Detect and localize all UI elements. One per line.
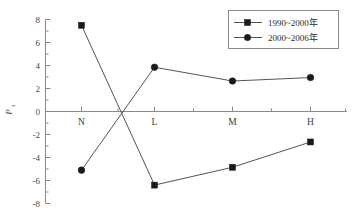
x-tick-label: M [228, 117, 237, 127]
data-point-circle [229, 78, 236, 85]
y-tick-label: 0 [36, 107, 41, 117]
series-line-2000-2006 [82, 67, 311, 170]
y-tick-label: -2 [33, 130, 41, 140]
x-axis-ticks [82, 107, 346, 112]
y-axis-title-subscript: s [10, 104, 16, 107]
legend-box [229, 11, 339, 49]
x-tick-label: H [307, 117, 314, 127]
data-point-square [79, 22, 85, 28]
line-chart: 8 6 4 2 0 -2 -4 -6 -8 P s N [0, 0, 353, 217]
legend-label: 1990~2000年 [268, 17, 318, 28]
legend-label: 2000~2006年 [268, 32, 318, 43]
data-point-circle [151, 64, 158, 71]
legend: 1990~2000年 2000~2006年 [229, 11, 339, 49]
x-tick-label: L [152, 117, 158, 127]
y-tick-label: 2 [36, 84, 41, 94]
series-line-1990-2000 [82, 25, 311, 185]
y-tick-label: 8 [36, 15, 41, 25]
series-markers-2000-2006 [78, 64, 314, 174]
y-tick-label: 4 [36, 61, 41, 71]
y-axis-ticks [46, 20, 51, 204]
y-tick-label: 6 [36, 38, 41, 48]
data-point-square [230, 164, 236, 170]
circle-marker-icon [244, 34, 250, 40]
y-axis-title-text: P [4, 109, 14, 116]
data-point-circle [78, 167, 85, 174]
data-point-square [152, 182, 158, 188]
y-axis-tick-labels: 8 6 4 2 0 -2 -4 -6 -8 [33, 15, 41, 209]
chart-container: 8 6 4 2 0 -2 -4 -6 -8 P s N [0, 0, 353, 217]
y-tick-label: -4 [33, 153, 41, 163]
y-axis-title: P s [4, 104, 16, 116]
y-tick-label: -6 [33, 176, 41, 186]
square-marker-icon [245, 20, 251, 26]
data-point-square [308, 139, 314, 145]
x-tick-label: N [78, 117, 85, 127]
data-point-circle [307, 74, 314, 81]
y-tick-label: -8 [33, 199, 41, 209]
